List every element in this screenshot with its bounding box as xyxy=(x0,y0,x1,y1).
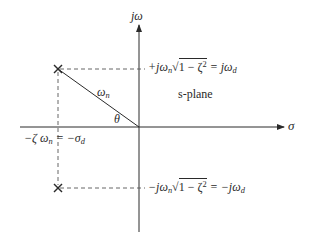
lower-pole-label: −jωn√1 − ζ2 = −jωd xyxy=(148,181,245,196)
sigma-axis-label: σ xyxy=(288,119,294,132)
real-part-label: −ζ ωn = −σd xyxy=(24,132,85,147)
plane-label: s-plane xyxy=(178,88,213,100)
jw-axis-label: jω xyxy=(131,10,143,22)
diagram-graphics xyxy=(0,0,313,245)
angle-label: θ xyxy=(114,113,120,125)
radius-label: ωn xyxy=(97,86,110,101)
upper-pole-label: +jωn√1 − ζ2 = jωd xyxy=(148,61,237,76)
s-plane-diagram: jω σ +jωn√1 − ζ2 = jωd −jωn√1 − ζ2 = −jω… xyxy=(0,0,313,245)
